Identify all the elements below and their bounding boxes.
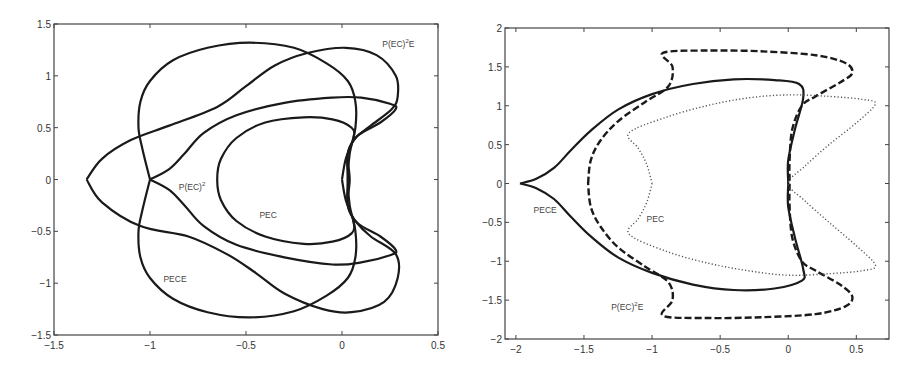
x-tick-label: −1 [144,340,156,351]
y-tick-label: −1 [40,278,52,289]
x-tick-label: −0.5 [236,340,256,351]
curve-p-ec-2e [588,50,852,318]
curve-label: P(EC)2E [611,301,643,312]
curve-label: P(EC)2E [382,38,414,49]
left-plot: −1.5−1−0.500.5−1.5−1−0.500.511.5P(EC)2EP… [31,19,445,351]
y-tick-label: −0.5 [31,226,51,237]
y-tick-label: −1.5 [482,295,502,306]
axes-box [505,28,889,339]
x-tick-label: 0 [339,340,345,351]
y-tick-label: −2 [491,334,503,345]
curve-label: PECE [534,205,557,215]
y-tick-label: −1 [491,256,503,267]
x-tick-label: 0 [785,344,791,355]
y-tick-label: 1.5 [488,62,502,73]
y-tick-label: −1.5 [31,330,51,341]
x-tick-label: 0.5 [849,344,863,355]
curve-label: PEC [647,214,664,224]
x-tick-label: −2 [510,344,522,355]
x-tick-label: 0.5 [431,340,445,351]
x-tick-label: −0.5 [710,344,730,355]
y-tick-label: 0.5 [37,123,51,134]
y-tick-label: 0 [45,175,51,186]
figure: −1.5−1−0.500.5−1.5−1−0.500.511.5P(EC)2EP… [0,0,920,367]
y-tick-label: 1 [45,71,51,82]
curve-pec [217,117,354,244]
x-tick-label: −1.5 [44,340,64,351]
y-tick-label: 1 [496,101,502,112]
x-tick-label: −1 [646,344,658,355]
y-tick-label: −0.5 [482,217,502,228]
curve-label: P(EC)2 [179,181,206,192]
y-tick-label: 0.5 [488,140,502,151]
x-tick-label: −1.5 [574,344,594,355]
curve-label: PECE [163,274,186,284]
y-tick-label: 1.5 [37,19,51,30]
right-plot: −2−1.5−1−0.500.5−2−1.5−1−0.500.511.52PEC… [482,23,889,355]
curve-pec [628,95,876,276]
y-tick-label: 0 [496,179,502,190]
curve-label: PEC [259,210,276,220]
axes-box [54,24,438,335]
y-tick-label: 2 [496,23,502,34]
curve-pece [520,79,805,290]
